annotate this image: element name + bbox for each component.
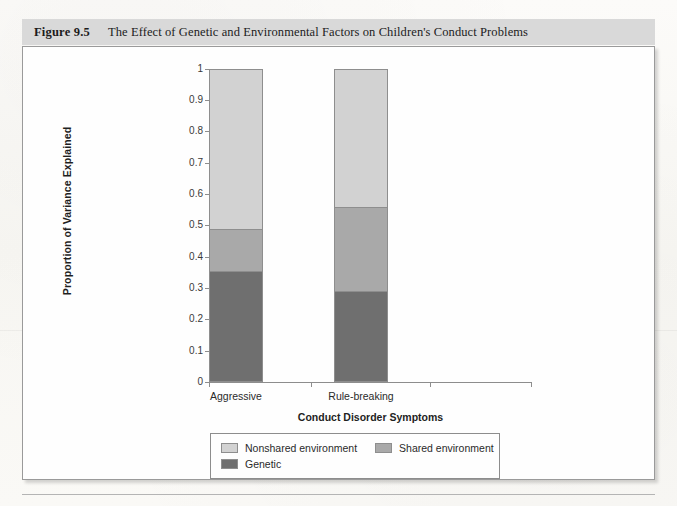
y-tick-label-01: 0.1 <box>169 345 203 356</box>
legend-item-nonshared[interactable]: Nonshared environment <box>221 442 357 454</box>
y-tick-label-09: 0.9 <box>169 94 203 105</box>
x-axis-line <box>209 382 532 383</box>
figure-panel: Proportion of Variance Explained 1 0.9 0… <box>22 46 655 480</box>
footer-rule <box>22 494 655 495</box>
y-tick-label-08: 0.8 <box>169 125 203 136</box>
stacked-bar-aggressive[interactable] <box>209 69 263 382</box>
y-tick-label-0: 0 <box>169 376 203 387</box>
bar-segment-genetic-rule-breaking[interactable] <box>334 291 388 382</box>
figure-title: The Effect of Genetic and Environmental … <box>108 25 528 40</box>
x-tick-label-aggressive: Aggressive <box>166 390 306 402</box>
chart-legend: Nonshared environment Shared environment… <box>210 433 500 479</box>
y-tick-label-06: 0.6 <box>169 188 203 199</box>
legend-row-bottom: Genetic <box>221 456 491 472</box>
y-tick-label-05: 0.5 <box>169 219 203 230</box>
stacked-bar-rule-breaking[interactable] <box>334 69 388 382</box>
x-tick-mark-inner <box>430 383 431 387</box>
bar-segment-genetic-aggressive[interactable] <box>209 271 263 382</box>
legend-label-nonshared: Nonshared environment <box>245 442 357 454</box>
legend-swatch-nonshared-icon <box>221 443 238 453</box>
y-tick-label-02: 0.2 <box>169 313 203 324</box>
x-tick-mark-start <box>209 383 210 387</box>
x-tick-label-rule-breaking: Rule-breaking <box>291 390 431 402</box>
bar-segment-nonshared-aggressive[interactable] <box>209 69 263 229</box>
legend-swatch-genetic-icon <box>221 459 238 469</box>
y-axis-label: Proportion of Variance Explained <box>61 91 73 331</box>
y-tick-label-04: 0.4 <box>169 251 203 262</box>
legend-item-genetic[interactable]: Genetic <box>221 458 281 470</box>
legend-item-shared[interactable]: Shared environment <box>375 442 494 454</box>
chart-plot-area: Proportion of Variance Explained 1 0.9 0… <box>23 47 656 481</box>
legend-label-genetic: Genetic <box>245 458 281 470</box>
y-tick-label-07: 0.7 <box>169 157 203 168</box>
bar-segment-shared-rule-breaking[interactable] <box>334 207 388 291</box>
bar-segment-shared-aggressive[interactable] <box>209 229 263 271</box>
figure-caption-band: Figure 9.5 The Effect of Genetic and Env… <box>22 19 655 45</box>
legend-label-shared: Shared environment <box>399 442 494 454</box>
x-tick-mark-end <box>531 383 532 387</box>
bar-segment-nonshared-rule-breaking[interactable] <box>334 69 388 207</box>
x-axis-label: Conduct Disorder Symptoms <box>209 411 532 423</box>
figure-number: Figure 9.5 <box>34 25 90 40</box>
legend-swatch-shared-icon <box>375 443 392 453</box>
legend-row-top: Nonshared environment Shared environment <box>221 440 491 456</box>
y-tick-label-03: 0.3 <box>169 282 203 293</box>
x-tick-mark-middle <box>311 383 312 387</box>
y-tick-label-1: 1 <box>169 63 203 74</box>
